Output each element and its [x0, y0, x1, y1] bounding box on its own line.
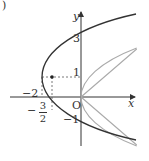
corner-label: ) — [2, 0, 6, 11]
tick-label-y1: 1 — [73, 67, 80, 78]
frac-numerator: 3 — [40, 100, 46, 111]
frac-denominator: 2 — [40, 113, 46, 124]
x-axis-label: x — [128, 98, 134, 109]
focus-point — [50, 75, 54, 79]
fraction-three-halves: 3 2 — [36, 101, 50, 124]
tick-label-xneg2: −2 — [22, 88, 38, 99]
coordinate-graph: ) y 3 1 O x −1 −2 − 3 2 — [0, 0, 149, 161]
y-axis-label: y — [73, 11, 79, 22]
frac-sign: − — [27, 105, 36, 116]
tick-label-yneg1: −1 — [63, 114, 79, 125]
graph-canvas — [0, 0, 149, 161]
tick-label-y3: 3 — [73, 33, 80, 44]
origin-label: O — [72, 100, 81, 111]
